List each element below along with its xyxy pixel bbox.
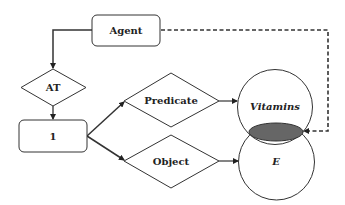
at-node: AT <box>21 69 86 106</box>
e-label: E <box>271 156 280 167</box>
at-label: AT <box>45 82 61 93</box>
diagram-canvas: Agent AT 1 Predicate Object Vitamins E <box>0 0 345 205</box>
edge-one-to-object <box>87 136 124 160</box>
object-node: Object <box>124 135 219 188</box>
intersection-lens <box>249 123 303 141</box>
vitamins-label: Vitamins <box>250 101 300 112</box>
one-node: 1 <box>19 120 87 152</box>
agent-node: Agent <box>92 15 160 46</box>
edge-one-to-predicate <box>87 102 124 136</box>
agent-label: Agent <box>108 25 142 36</box>
one-label: 1 <box>50 131 57 142</box>
predicate-node: Predicate <box>124 73 219 127</box>
object-label: Object <box>153 156 190 167</box>
predicate-label: Predicate <box>144 95 198 106</box>
edge-agent-to-at <box>53 30 92 68</box>
